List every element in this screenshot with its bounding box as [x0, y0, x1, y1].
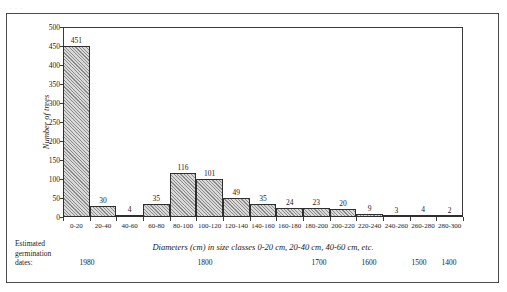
histogram-bar	[116, 215, 143, 217]
y-tick-label: 350	[49, 80, 60, 89]
x-tick-mark	[330, 217, 331, 221]
x-tick-mark	[116, 217, 117, 221]
germination-label-line1: Estimated	[15, 239, 65, 249]
y-tick-label: 450	[49, 42, 60, 51]
bar-value-label: 49	[233, 188, 241, 197]
bar-value-label: 35	[153, 194, 161, 203]
x-tick-mark	[356, 217, 357, 221]
scan-top-artifact: · · · · ·	[0, 0, 507, 13]
histogram-bar	[356, 214, 383, 217]
x-tick-label: 220-240	[358, 222, 381, 230]
bar-value-label: 9	[368, 204, 372, 213]
x-tick-mark	[143, 217, 144, 221]
histogram-bar	[436, 215, 463, 217]
bar-value-label: 101	[204, 169, 215, 178]
x-tick-mark	[276, 217, 277, 221]
germination-year: 1600	[362, 258, 377, 267]
x-tick-label: 100-120	[198, 222, 221, 230]
germination-label-line2: germination	[15, 249, 65, 259]
y-tick-mark	[60, 27, 64, 28]
bar-value-label: 30	[99, 196, 107, 205]
bar-value-label: 35	[259, 194, 267, 203]
germination-year-row: 198018001700160015001400	[63, 258, 463, 272]
x-tick-mark	[250, 217, 251, 221]
x-tick-mark	[410, 217, 411, 221]
x-tick-mark	[90, 217, 91, 221]
histogram-bar	[383, 215, 410, 217]
bar-value-label: 451	[71, 36, 82, 45]
bar-value-label: 2	[448, 206, 452, 215]
x-tick-mark	[436, 217, 437, 221]
germination-year: 1500	[412, 258, 427, 267]
histogram-bar	[196, 179, 223, 217]
histogram-bar	[223, 198, 250, 217]
scan-artifact-text: · · · · ·	[0, 5, 22, 13]
x-axis-caption: Diameters (cm) in size classes 0-20 cm, …	[63, 242, 463, 252]
x-tick-label: 80-100	[173, 222, 193, 230]
histogram-bar	[303, 208, 330, 217]
x-tick-label: 140-160	[251, 222, 274, 230]
x-tick-mark	[303, 217, 304, 221]
bar-value-label: 23	[313, 198, 321, 207]
histogram-bar	[410, 215, 437, 217]
bar-value-label: 3	[394, 206, 398, 215]
x-tick-label: 60-80	[148, 222, 164, 230]
x-tick-label: 40-60	[121, 222, 137, 230]
histogram-bar	[276, 208, 303, 217]
bar-value-label: 116	[178, 163, 189, 172]
y-tick-label: 500	[49, 23, 60, 32]
x-tick-mark	[463, 217, 464, 221]
x-tick-mark	[196, 217, 197, 221]
histogram-bar	[63, 46, 90, 217]
bar-value-label: 4	[421, 205, 425, 214]
x-tick-label: 280-300	[438, 222, 461, 230]
x-tick-label: 120-140	[225, 222, 248, 230]
germination-year: 1980	[80, 258, 95, 267]
plot-frame	[63, 27, 463, 217]
x-tick-mark	[170, 217, 171, 221]
x-tick-label: 260-280	[411, 222, 434, 230]
x-tick-label: 240-260	[385, 222, 408, 230]
y-tick-label: 200	[49, 137, 60, 146]
histogram-bar	[170, 173, 197, 217]
histogram-bar	[250, 204, 277, 217]
x-tick-label: 160-180	[278, 222, 301, 230]
x-tick-mark	[223, 217, 224, 221]
bar-value-label: 24	[286, 198, 294, 207]
y-tick-label: 300	[49, 99, 60, 108]
bar-value-label: 20	[339, 199, 347, 208]
germination-dates-label: Estimated germination dates:	[15, 239, 65, 268]
x-tick-mark	[63, 217, 64, 221]
y-tick-label: 250	[49, 118, 60, 127]
germination-year: 1400	[442, 258, 457, 267]
x-tick-label: 200-220	[331, 222, 354, 230]
histogram-plot: Number of trees 050100150200250300350400…	[63, 27, 463, 217]
x-tick-label: 180-200	[305, 222, 328, 230]
germination-year: 1700	[312, 258, 327, 267]
bar-value-label: 4	[128, 205, 132, 214]
figure-frame: Number of trees 050100150200250300350400…	[6, 13, 499, 283]
y-tick-label: 100	[49, 175, 60, 184]
x-tick-mark	[383, 217, 384, 221]
x-tick-label: 0-20	[70, 222, 83, 230]
histogram-bar	[90, 206, 117, 217]
germination-label-line3: dates:	[15, 258, 65, 268]
y-tick-label: 400	[49, 61, 60, 70]
y-tick-label: 150	[49, 156, 60, 165]
histogram-bar	[330, 209, 357, 217]
histogram-bar	[143, 204, 170, 217]
germination-year: 1800	[198, 258, 213, 267]
x-tick-label: 20-40	[95, 222, 111, 230]
